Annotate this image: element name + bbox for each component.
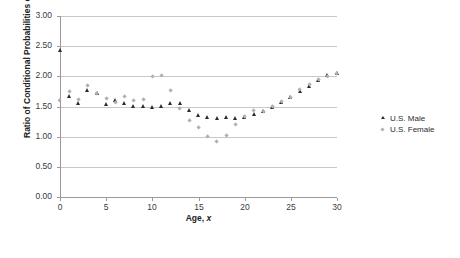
y-axis-line [60,16,61,198]
data-point-female [169,88,174,93]
data-point-male [104,102,108,106]
data-point-male [58,48,62,52]
x-tick-label: 20 [230,203,260,212]
x-tick-label: 0 [45,203,75,212]
scatter-chart: Ratio of Conditional Probabilities of De… [0,0,460,258]
data-point-male [224,115,228,119]
data-point-male [67,94,71,98]
data-point-female [289,96,294,101]
data-point-female [159,73,164,78]
data-point-female [58,98,63,103]
x-tick-label: 25 [276,203,306,212]
data-point-female [122,94,127,99]
data-point-male [178,101,182,105]
x-tick-label: 15 [184,203,214,212]
y-tickmark [57,46,60,47]
y-tick-label: 1.00 [14,132,52,141]
x-tickmark [245,198,246,201]
gridline-y [60,16,337,17]
x-axis-title-text: Age, [186,213,207,223]
data-point-female [95,92,100,97]
y-tickmark [57,76,60,77]
y-tickmark [57,16,60,17]
data-point-male [168,101,172,105]
x-tickmark [291,198,292,201]
data-point-female [150,75,155,80]
data-point-male [196,113,200,117]
y-tick-label: 3.00 [14,11,52,20]
data-point-female [132,98,137,103]
gridline-y [60,137,337,138]
y-tick-label: 2.00 [14,71,52,80]
y-tickmark [57,107,60,108]
gridline-y [60,107,337,108]
legend-label-male: U.S. Male [390,113,425,124]
triangle-marker-icon [381,116,385,119]
y-axis-title: Ratio of Conditional Probabilities of De… [22,0,32,138]
data-point-male [215,116,219,120]
data-point-female [215,139,220,144]
data-point-female [104,96,109,101]
data-point-male [141,104,145,108]
y-tick-label: 2.50 [14,41,52,50]
data-point-male [233,116,237,120]
x-axis-title: Age, x [60,213,337,223]
data-point-male [150,105,154,109]
diamond-marker-icon [380,127,384,131]
x-tickmark [152,198,153,201]
x-tick-label: 10 [137,203,167,212]
data-point-male [205,115,209,119]
y-tick-label: 1.50 [14,102,52,111]
x-tickmark [60,198,61,201]
x-tickmark [337,198,338,201]
y-tick-label: 0.00 [14,192,52,201]
data-point-male [131,104,135,108]
gridline-y [60,167,337,168]
data-point-female [196,125,201,130]
data-point-male [159,104,163,108]
gridline-y [60,46,337,47]
y-tickmark [57,167,60,168]
x-axis-title-variable: x [207,213,212,223]
y-tickmark [57,137,60,138]
gridline-y [60,76,337,77]
data-point-female [261,110,266,115]
x-tick-label: 30 [322,203,352,212]
x-tickmark [199,198,200,201]
data-point-male [187,108,191,112]
x-tick-label: 5 [91,203,121,212]
legend-label-female: U.S. Female [390,124,434,135]
y-tick-label: 0.50 [14,162,52,171]
data-point-female [187,118,192,123]
data-point-female [205,134,210,139]
data-point-male [122,101,126,105]
data-point-female [141,97,146,102]
x-tickmark [106,198,107,201]
data-point-female [233,122,238,127]
